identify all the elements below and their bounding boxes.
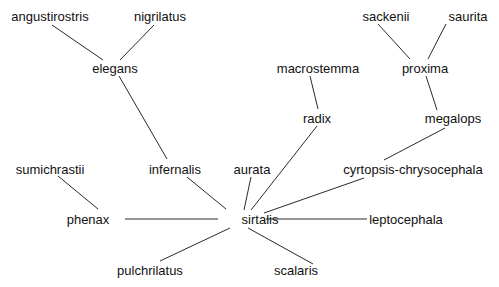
edge-infernalis-sirtalis [187,177,226,209]
node-infernalis: infernalis [149,162,202,177]
node-sackenii: sackenii [363,9,410,24]
node-scalaris: scalaris [274,263,319,278]
node-angustirostris: angustirostris [11,9,89,24]
edge-nigrilatus-elegans [120,25,154,60]
edge-sackenii-proxima [378,24,410,59]
edge-proxima-megalops [426,76,437,110]
node-phenax: phenax [67,212,110,227]
node-radix: radix [303,111,332,126]
edge-cyrtopsis-chrysocephala-sirtalis [264,178,364,213]
edge-saurita-proxima [428,24,446,59]
node-sirtalis: sirtalis [242,212,279,227]
edge-sirtalis-pulchrilatus [160,228,230,261]
edge-sirtalis-scalaris [248,228,313,264]
node-elegans: elegans [92,61,138,76]
edge-elegans-infernalis [119,76,167,159]
edge-angustirostris-elegans [52,25,103,60]
edge-aurata-sirtalis [244,177,251,210]
node-pulchrilatus: pulchrilatus [117,263,183,278]
node-macrostemma: macrostemma [277,61,360,76]
node-leptocephala: leptocephala [369,212,443,227]
node-cyrtopsis-chrysocephala: cyrtopsis-chrysocephala [343,162,483,177]
node-sumichrastii: sumichrastii [16,162,85,177]
edge-sumichrastii-phenax [58,176,98,209]
node-aurata: aurata [234,162,272,177]
phylogenetic-tree-diagram: angustirostrisnigrilatuselegansinfernali… [0,0,499,287]
edge-megalops-cyrtopsis-chrysocephala [384,128,445,160]
node-saurita: saurita [448,9,488,24]
node-nigrilatus: nigrilatus [134,9,187,24]
node-proxima: proxima [402,61,449,76]
node-megalops: megalops [425,111,482,126]
edge-macrostemma-radix [310,76,318,109]
